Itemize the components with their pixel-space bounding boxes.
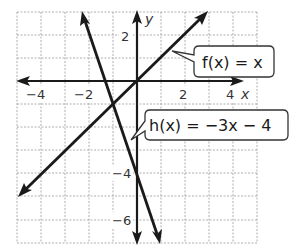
x-tick-neg4: −4 bbox=[26, 87, 45, 102]
y-tick-2: 2 bbox=[121, 29, 129, 44]
x-tick-4: 4 bbox=[226, 87, 234, 102]
h-callout: h(x) = −3x − 4 bbox=[131, 110, 288, 140]
x-tick-neg2: −2 bbox=[74, 87, 93, 102]
y-axis-label: y bbox=[144, 11, 154, 27]
x-tick-2: 2 bbox=[179, 87, 187, 102]
coordinate-plane: −4 −2 2 4 x 2 y −4 −6 f(x) = x h(x) = −3… bbox=[0, 0, 296, 248]
f-callout-label: f(x) = x bbox=[202, 53, 263, 72]
x-axis-label: x bbox=[240, 86, 250, 102]
y-tick-neg4: −4 bbox=[112, 166, 131, 181]
h-callout-label: h(x) = −3x − 4 bbox=[149, 116, 271, 135]
f-callout: f(x) = x bbox=[172, 46, 274, 77]
y-tick-neg6: −6 bbox=[112, 213, 131, 228]
